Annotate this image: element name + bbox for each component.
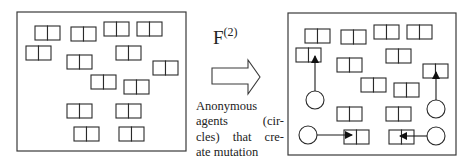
cell-right [407, 83, 420, 97]
cell-pair [344, 130, 369, 144]
cell-right [84, 27, 97, 41]
cell-left [386, 107, 399, 121]
cell-pair [67, 55, 92, 69]
caption-word: Anonymous [196, 99, 257, 113]
cell-pair [407, 25, 432, 39]
cell-right [350, 107, 363, 121]
caption-line-4: ate mutation [196, 145, 284, 160]
caption-word: (cir- [263, 114, 284, 129]
cell-right [350, 58, 363, 72]
caption-word: mutation [214, 145, 258, 159]
cell-pair [67, 104, 92, 118]
cell-left [137, 22, 150, 36]
cell-left [337, 58, 350, 72]
caption-word: cre- [265, 130, 284, 145]
cell-pair [296, 48, 321, 62]
cell-pair [116, 46, 141, 60]
cell-left [67, 104, 80, 118]
cell-right [166, 61, 179, 75]
cell-right [399, 49, 412, 63]
cell-right [150, 22, 163, 36]
cell-left [423, 64, 436, 78]
cell-left [305, 29, 318, 43]
caption-word: ate [196, 145, 211, 159]
cell-pair [341, 30, 366, 44]
cell-left [361, 78, 374, 92]
agent [427, 72, 445, 118]
operator-superscript: (2) [224, 25, 238, 39]
caption-word: cles) [196, 130, 220, 145]
agent-circle-icon [306, 91, 324, 109]
cell-pair [374, 25, 399, 39]
cell-pair [74, 127, 99, 141]
cell-right [87, 127, 100, 141]
cell-right [387, 25, 400, 39]
agent-circle-icon [427, 127, 445, 145]
cell-right [374, 78, 387, 92]
cell-right [117, 22, 130, 36]
cell-right [80, 55, 93, 69]
cell-left [26, 46, 39, 60]
cell-right [104, 75, 117, 89]
cell-left [337, 107, 350, 121]
initial-population-panel [17, 12, 186, 151]
cell-left [153, 61, 166, 75]
cell-right [402, 130, 415, 144]
cell-right [132, 127, 145, 141]
cell-left [119, 127, 132, 141]
cell-right [318, 29, 331, 43]
cell-pair [337, 58, 362, 72]
mutated-population-panel [288, 13, 456, 155]
cell-pair [361, 78, 386, 92]
operator-label: F(2) [213, 26, 238, 47]
cell-pair [116, 104, 141, 118]
cell-left [35, 26, 48, 40]
cell-pair [71, 27, 96, 41]
cell-left [74, 127, 87, 141]
cell-left [296, 48, 309, 62]
cell-pair [119, 127, 144, 141]
cell-pair [137, 22, 162, 36]
cell-left [389, 130, 402, 144]
caption-line-3: cles)thatcre- [196, 130, 284, 145]
cell-left [124, 80, 137, 94]
cell-right [80, 104, 93, 118]
cell-pair [386, 107, 411, 121]
cell-right [39, 46, 52, 60]
cell-right [436, 64, 449, 78]
caption-word: agents [196, 114, 228, 129]
cell-pair [337, 107, 362, 121]
cell-pair [124, 80, 149, 94]
cell-pair [305, 29, 330, 43]
cell-left [67, 55, 80, 69]
cell-right [354, 30, 367, 44]
cell-pair [26, 46, 51, 60]
cell-pair [389, 130, 414, 144]
cell-left [71, 27, 84, 41]
cell-pair [104, 22, 129, 36]
cell-right [129, 46, 142, 60]
cell-right [399, 107, 412, 121]
caption-line-1: Anonymous [196, 99, 284, 114]
cell-left [91, 75, 104, 89]
agent-circle-icon [427, 100, 445, 118]
cell-pair [91, 75, 116, 89]
caption-word: that [233, 130, 252, 145]
cell-left [407, 25, 420, 39]
cell-right [357, 130, 370, 144]
cell-left [341, 30, 354, 44]
cell-pair [153, 61, 178, 75]
cell-right [420, 25, 433, 39]
cell-pair [386, 49, 411, 63]
cell-left [394, 83, 407, 97]
cell-left [104, 22, 117, 36]
caption-line-2: agents(cir- [196, 114, 284, 129]
cell-left [344, 130, 357, 144]
cell-right [129, 104, 142, 118]
agent-circle-icon [299, 126, 317, 144]
cell-left [386, 49, 399, 63]
transformation-arrow-icon [212, 60, 260, 94]
cell-right [137, 80, 150, 94]
cell-left [116, 104, 129, 118]
agent [306, 56, 324, 109]
